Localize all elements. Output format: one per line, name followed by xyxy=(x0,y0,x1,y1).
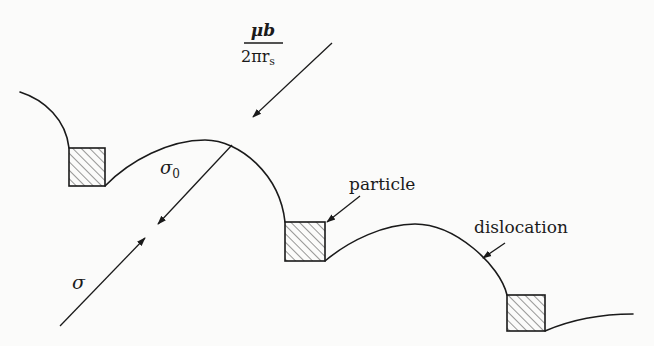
dislocation-segment-bowed-1 xyxy=(105,140,285,222)
fraction-denominator: 2πrs xyxy=(241,47,275,68)
particle-square-3 xyxy=(507,295,545,331)
particle-pointer-arrow xyxy=(327,196,360,222)
dislocation-pointer-arrow xyxy=(483,243,505,258)
diagram-svg: μb 2πrs σ0 σ particle dislocation xyxy=(0,0,654,346)
dislocation-segment-left xyxy=(20,92,69,148)
dislocation-particle-diagram: μb 2πrs σ0 σ particle dislocation xyxy=(0,0,654,346)
particle-label: particle xyxy=(349,174,415,194)
line-tension-label: μb 2πrs xyxy=(241,20,283,68)
dislocation-label: dislocation xyxy=(474,217,568,237)
fraction-numerator: μb xyxy=(251,20,275,40)
particle-square-1 xyxy=(69,148,105,186)
dislocation-segment-right xyxy=(545,314,633,331)
sigma-label: σ xyxy=(72,271,86,293)
particle-square-2 xyxy=(285,222,325,261)
sigma0-label: σ0 xyxy=(160,157,180,181)
